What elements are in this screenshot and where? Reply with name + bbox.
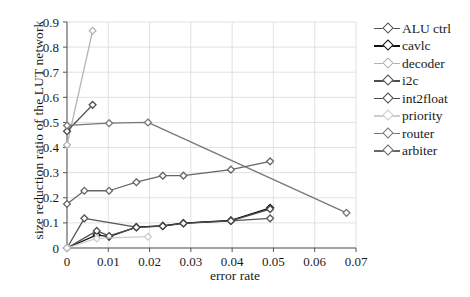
legend-item-alu-ctrl[interactable]: ALU ctrl	[374, 20, 470, 38]
legend-marker-icon	[374, 92, 400, 106]
y-tick-label: 0.3	[19, 166, 59, 179]
y-tick-label: 0.8	[19, 41, 59, 54]
legend-item-arbiter[interactable]: arbiter	[374, 143, 470, 161]
legend-item-label: ALU ctrl	[400, 22, 451, 36]
legend-item-label: i2c	[400, 74, 419, 88]
legend-item-label: priority	[400, 109, 443, 123]
legend-item-i2c[interactable]: i2c	[374, 73, 470, 91]
series-cavlc	[64, 204, 274, 251]
legend-item-label: arbiter	[400, 144, 437, 158]
legend-item-label: int2float	[400, 92, 448, 106]
y-tick-label: 0.6	[19, 91, 59, 104]
legend-item-label: router	[400, 127, 434, 141]
y-tick-label: 0.7	[19, 66, 59, 79]
series-i2c	[64, 206, 274, 252]
y-tick-label: 0.2	[19, 191, 59, 204]
legend-marker-icon	[374, 22, 400, 36]
legend-marker-icon	[374, 74, 400, 88]
x-axis-label: error rate	[100, 268, 370, 284]
y-tick-label: 0.4	[19, 141, 59, 154]
legend-item-decoder[interactable]: decoder	[374, 55, 470, 73]
legend-item-cavlc[interactable]: cavlc	[374, 38, 470, 56]
chart-legend: ALU ctrlcavlcdecoderi2cint2floatpriority…	[374, 20, 470, 160]
series-router	[64, 119, 350, 216]
legend-marker-icon	[374, 109, 400, 123]
y-tick-label: 0.5	[19, 116, 59, 129]
y-tick-label: 0.9	[19, 16, 59, 29]
legend-item-priority[interactable]: priority	[374, 108, 470, 126]
series-int2float	[64, 101, 96, 134]
x-tick-label: 0.07	[331, 255, 381, 268]
legend-item-label: decoder	[400, 57, 445, 71]
chart-figure: size reduction ratio of the LUT network …	[0, 0, 470, 297]
legend-item-label: cavlc	[400, 39, 430, 53]
legend-marker-icon	[374, 144, 400, 158]
legend-marker-icon	[374, 57, 400, 71]
legend-item-int2float[interactable]: int2float	[374, 90, 470, 108]
legend-item-router[interactable]: router	[374, 125, 470, 143]
y-tick-label: 0.1	[19, 216, 59, 229]
y-tick-label: 0	[19, 242, 59, 255]
legend-marker-icon	[374, 39, 400, 53]
legend-marker-icon	[374, 127, 400, 141]
